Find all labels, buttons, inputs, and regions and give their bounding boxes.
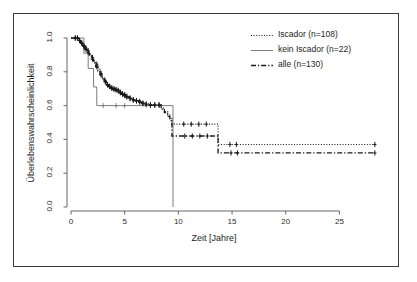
x-tick-label: 5 bbox=[115, 218, 135, 226]
x-tick-label: 25 bbox=[329, 218, 349, 226]
x-tick-label: 0 bbox=[61, 218, 81, 226]
y-tick-label: 0.0 bbox=[46, 195, 54, 217]
x-axis-title: Zeit [Jahre] bbox=[71, 233, 357, 243]
x-tick-label: 20 bbox=[276, 218, 296, 226]
legend-label-kein-iscador: kein Iscador (n=22) bbox=[278, 45, 351, 54]
legend-label-alle: alle (n=130) bbox=[278, 60, 323, 69]
legend-key-solid-icon bbox=[250, 43, 274, 58]
legend-key-dashdot-icon bbox=[250, 58, 274, 73]
y-tick-label: 0.2 bbox=[46, 161, 54, 183]
legend-item-alle: alle (n=130) bbox=[250, 58, 400, 73]
x-tick-label: 10 bbox=[168, 218, 188, 226]
y-tick-label: 0.6 bbox=[46, 94, 54, 116]
y-tick-label: 0.8 bbox=[46, 60, 54, 82]
y-axis-title: Überlebenswahrscheinlichkeit bbox=[26, 48, 36, 198]
legend-item-iscador: Iscador (n=108) bbox=[250, 28, 400, 43]
figure-container: Überlebenswahrscheinlichkeit Zeit [Jahre… bbox=[0, 0, 417, 282]
chart-legend: Iscador (n=108) kein Iscador (n=22) alle… bbox=[250, 28, 400, 73]
y-tick-label: 1.0 bbox=[46, 26, 54, 48]
x-tick-label: 15 bbox=[222, 218, 242, 226]
legend-key-dotted-icon bbox=[250, 28, 274, 43]
survival-curve-1 bbox=[71, 38, 173, 207]
legend-item-kein-iscador: kein Iscador (n=22) bbox=[250, 43, 400, 58]
y-tick-label: 0.4 bbox=[46, 127, 54, 149]
legend-label-iscador: Iscador (n=108) bbox=[278, 30, 338, 39]
